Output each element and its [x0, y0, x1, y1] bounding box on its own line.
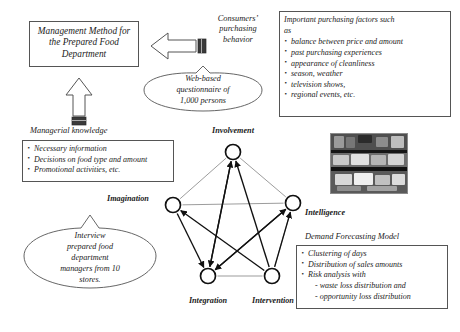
network-edge [177, 214, 204, 268]
network-edge [210, 161, 231, 266]
network-edge [215, 209, 286, 270]
interview-line-4: managers from 10 [20, 264, 160, 274]
management-method-box: Management Method for the Prepared Food … [29, 21, 139, 67]
photo-item [333, 155, 349, 165]
purchasing-factors-intro-2: as [284, 26, 446, 37]
photo-item [337, 186, 361, 191]
network-nodes [166, 145, 301, 284]
demand-model-item: Risk analysis with [301, 270, 443, 281]
demand-model-title: Demand Forecasting Model [305, 232, 399, 242]
interview-callout: Interview prepared food department manag… [20, 212, 160, 292]
managerial-knowledge-title: Managerial knowledge [30, 126, 107, 136]
managerial-knowledge-item: Promotional activities, etc. [27, 165, 169, 176]
managerial-knowledge-list: Necessary information Decisions on food … [27, 144, 169, 176]
management-method-line-1: Management Method for [33, 26, 135, 37]
photo-item [391, 136, 404, 148]
consumers-behavior-line-1: Consumers’ [207, 14, 269, 24]
demand-model-item: Distribution of sales amounts [301, 260, 443, 271]
network-edge [275, 212, 291, 267]
managerial-knowledge-item: Necessary information [27, 144, 169, 155]
questionnaire-callout: Web-based questionnaire of 1,000 persons [140, 62, 266, 114]
purchasing-factor-item: television shows, [284, 80, 446, 91]
purchasing-factor-item: past purchasing experiences [284, 48, 446, 59]
questionnaire-line-2: questionnaire of [140, 85, 266, 95]
demand-model-item: Clustering of days [301, 249, 443, 260]
purchasing-factors-list: balance between price and amount past pu… [284, 37, 446, 101]
interview-line-3: department [20, 253, 160, 263]
management-method-line-3: Department [33, 49, 135, 60]
node-label-intervention: Intervention [237, 296, 309, 306]
node-label-involvement: Involvement [198, 126, 268, 136]
network-node-intelligence[interactable] [286, 196, 301, 211]
photo-item [388, 154, 404, 165]
network-edge [182, 203, 283, 205]
interview-line-1: Interview [20, 231, 160, 241]
network-node-involvement[interactable] [226, 145, 241, 160]
purchasing-factor-item: regional events, etc. [284, 90, 446, 101]
photo-item [358, 135, 372, 143]
management-method-line-2: the Prepared Food [33, 37, 135, 48]
network-edge [215, 209, 286, 270]
photo-item [351, 154, 369, 165]
network-edge [275, 212, 291, 267]
consumers-behavior-line-2: purchasing [207, 24, 269, 34]
photo-item [375, 175, 390, 185]
network-edge [240, 158, 286, 197]
photo-item [354, 173, 373, 185]
network-edge [180, 158, 226, 198]
managerial-knowledge-item: Decisions on food type and amount [27, 155, 169, 166]
purchasing-factors-intro-1: Important purchasing factors such [284, 15, 446, 26]
demand-model-list: Clustering of days Distribution of sales… [301, 249, 443, 302]
consumers-behavior-label: Consumers’ purchasing behavior [207, 14, 269, 45]
prepared-food-photo [330, 133, 408, 194]
photo-item [371, 155, 386, 165]
demand-model-box: Clustering of days Distribution of sales… [296, 245, 448, 309]
demand-model-subitem: - waste loss distribution and [301, 281, 443, 292]
up-block-arrow [63, 76, 99, 128]
purchasing-factor-item: appearance of cleanliness [284, 59, 446, 70]
managerial-knowledge-box: Necessary information Decisions on food … [22, 140, 174, 182]
photo-item [346, 137, 355, 148]
photo-item [376, 137, 388, 147]
purchasing-factor-item: season, weather [284, 69, 446, 80]
node-label-intelligence: Intelligence [305, 208, 345, 218]
photo-item [335, 174, 352, 185]
network-node-intervention[interactable] [265, 269, 280, 284]
network-edge [236, 161, 269, 267]
network-edge [181, 211, 265, 271]
photo-item [334, 136, 344, 148]
questionnaire-line-3: 1,000 persons [140, 96, 266, 106]
interview-line-2: prepared food [20, 242, 160, 252]
figure-canvas: Management Method for the Prepared Food … [0, 0, 460, 332]
questionnaire-line-1: Web-based [140, 74, 266, 84]
network-node-integration[interactable] [201, 269, 216, 284]
purchasing-factors-box: Important purchasing factors such as bal… [279, 11, 451, 117]
node-label-imagination: Imagination [107, 194, 149, 204]
consumers-behavior-line-3: behavior [207, 35, 269, 45]
interview-line-5: stores. [20, 275, 160, 285]
purchasing-factor-item: balance between price and amount [284, 37, 446, 48]
network-edges [177, 158, 290, 276]
photo-item [392, 174, 405, 185]
network-node-imagination[interactable] [166, 198, 181, 213]
photo-item [367, 186, 397, 191]
demand-model-subitem: - opportunity loss distribution [301, 292, 443, 303]
node-label-integration: Integration [173, 296, 243, 306]
network-edge [210, 161, 231, 266]
